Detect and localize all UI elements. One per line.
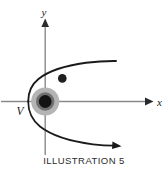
x-axis-label: x [156, 96, 162, 108]
vertex-label: V [17, 105, 26, 117]
focus-body-core [39, 95, 52, 108]
axes-group [1, 19, 154, 156]
figure-caption: ILLUSTRATION 5 [0, 155, 168, 166]
orbiting-body-dot [58, 74, 67, 83]
parabolic-orbit-diagram: y x V [0, 0, 168, 176]
y-axis-label: y [41, 6, 47, 18]
illustration-figure: y x V ILLUSTRATION 5 [0, 0, 168, 176]
focus-body-group [31, 88, 59, 116]
lower-branch-arrowhead [112, 142, 122, 150]
y-axis-arrowhead [41, 19, 49, 28]
x-axis-arrowhead [145, 98, 154, 106]
